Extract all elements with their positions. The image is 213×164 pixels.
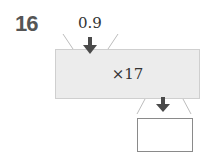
answer-box[interactable] — [137, 118, 193, 152]
output-arrow-icon — [156, 97, 170, 112]
input-arrow-icon — [83, 37, 97, 54]
